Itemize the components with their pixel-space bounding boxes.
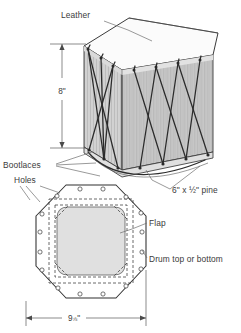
- bootlaces-callout: Bootlaces: [3, 152, 100, 176]
- lacing-hole: [140, 230, 144, 234]
- lacing-hole: [139, 267, 143, 271]
- height-dimension: 8": [50, 44, 86, 148]
- leather-label: Leather: [61, 10, 90, 20]
- drum-top-bottom-callout: Drum top or bottom: [142, 250, 223, 264]
- head-inner-shape: [57, 207, 125, 275]
- drum-perspective-view: [84, 18, 218, 177]
- height-dimension-label: 8": [58, 87, 66, 96]
- lacing-hole: [40, 268, 44, 272]
- lacing-hole: [78, 187, 82, 191]
- bootlaces-label: Bootlaces: [3, 160, 41, 170]
- lacing-hole: [55, 194, 59, 198]
- width-dimension-unit: ": [77, 314, 80, 323]
- pine-label: 6" x ½" pine: [172, 185, 218, 195]
- drum-top-or-bottom-label: Drum top or bottom: [149, 254, 223, 264]
- flap-label: Flap: [149, 218, 166, 228]
- lacing-hole: [38, 250, 42, 254]
- drum-head-plan-view: [36, 185, 146, 298]
- holes-label: Holes: [14, 175, 36, 185]
- lacing-hole: [124, 195, 128, 199]
- pine-callout: 6" x ½" pine: [146, 166, 218, 195]
- lacing-hole: [101, 187, 105, 191]
- width-dimension-label: 9⅞": [68, 314, 80, 323]
- lacing-hole: [101, 292, 105, 296]
- lacing-hole: [139, 211, 143, 215]
- lacing-hole: [38, 230, 42, 234]
- lacing-hole: [124, 284, 128, 288]
- lacing-hole: [78, 292, 82, 296]
- lacing-hole: [56, 286, 60, 290]
- drum-construction-figure: 8" Leather Bootlaces 6" x ½" pine: [0, 0, 241, 333]
- lacing-hole: [40, 212, 44, 216]
